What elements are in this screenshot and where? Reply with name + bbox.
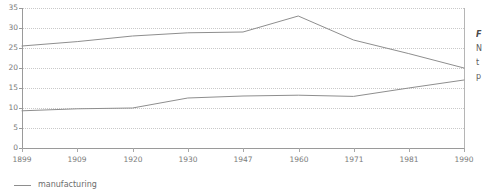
x-tick-label-1899: 1899: [12, 155, 31, 164]
plot-right-border: [464, 8, 465, 149]
chart-page: 35 30 25 20 15 10 5 0 1899 1909 1920 193…: [0, 0, 494, 192]
x-tick-label-1971: 1971: [344, 155, 363, 164]
y-tick-label-25: 25: [2, 44, 18, 52]
y-tick-label-30: 30: [2, 24, 18, 32]
x-tick-mark-1981: [409, 148, 410, 152]
plot-area: [22, 8, 464, 148]
x-tick-label-1990: 1990: [454, 155, 473, 164]
y-tick-mark-10: [19, 108, 23, 109]
gridline-30: [22, 28, 464, 29]
caption-title: F: [476, 28, 494, 42]
y-tick-label-0: 0: [2, 144, 18, 152]
y-tick-mark-35: [19, 8, 23, 9]
x-tick-label-1909: 1909: [67, 155, 86, 164]
y-tick-label-15: 15: [2, 84, 18, 92]
caption-line-2: t: [476, 56, 494, 70]
x-tick-mark-1909: [77, 148, 78, 152]
y-tick-mark-25: [19, 48, 23, 49]
x-tick-label-1960: 1960: [289, 155, 308, 164]
gridline-10: [22, 108, 464, 109]
gridline-20: [22, 68, 464, 69]
legend-line-swatch-icon: [14, 185, 31, 186]
gridline-5: [22, 128, 464, 129]
y-tick-label-5: 5: [2, 124, 18, 132]
x-tick-label-1930: 1930: [178, 155, 197, 164]
y-tick-mark-20: [19, 68, 23, 69]
chart-legend: manufacturing: [14, 180, 97, 190]
caption-line-3: p: [476, 70, 494, 84]
x-tick-mark-1990: [464, 148, 465, 152]
y-tick-label-35: 35: [2, 4, 18, 12]
gridline-25: [22, 48, 464, 49]
x-tick-label-1947: 1947: [233, 155, 252, 164]
y-tick-label-20: 20: [2, 64, 18, 72]
x-tick-mark-1899: [22, 148, 23, 152]
y-tick-label-10: 10: [2, 104, 18, 112]
gridline-15: [22, 88, 464, 89]
y-tick-mark-5: [19, 128, 23, 129]
x-tick-mark-1960: [299, 148, 300, 152]
x-tick-label-1920: 1920: [123, 155, 142, 164]
gridline-35: [22, 8, 464, 9]
caption-line-1: N: [476, 42, 494, 56]
legend-label-manufacturing: manufacturing: [38, 180, 97, 190]
x-tick-mark-1920: [133, 148, 134, 152]
figure-caption: F N t p: [476, 28, 494, 84]
x-tick-label-1981: 1981: [399, 155, 418, 164]
x-tick-mark-1930: [188, 148, 189, 152]
y-tick-mark-15: [19, 88, 23, 89]
y-tick-mark-30: [19, 28, 23, 29]
x-tick-mark-1971: [354, 148, 355, 152]
x-tick-mark-1947: [243, 148, 244, 152]
